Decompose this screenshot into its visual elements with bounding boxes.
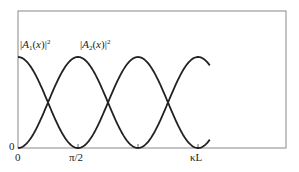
chart-canvas xyxy=(0,0,299,172)
x-tick-zero: 0 xyxy=(15,152,21,163)
series-a2-curve xyxy=(18,57,210,148)
x-tick-pi-half: π/2 xyxy=(69,152,83,163)
series-a1-label: |A1(x)|2 xyxy=(20,39,50,52)
series-a1-curve xyxy=(18,57,210,148)
x-tick-kappa-l: κL xyxy=(190,152,202,163)
series-a2-label: |A2(x)|2 xyxy=(80,39,110,52)
y-tick-zero: 0 xyxy=(9,141,15,152)
